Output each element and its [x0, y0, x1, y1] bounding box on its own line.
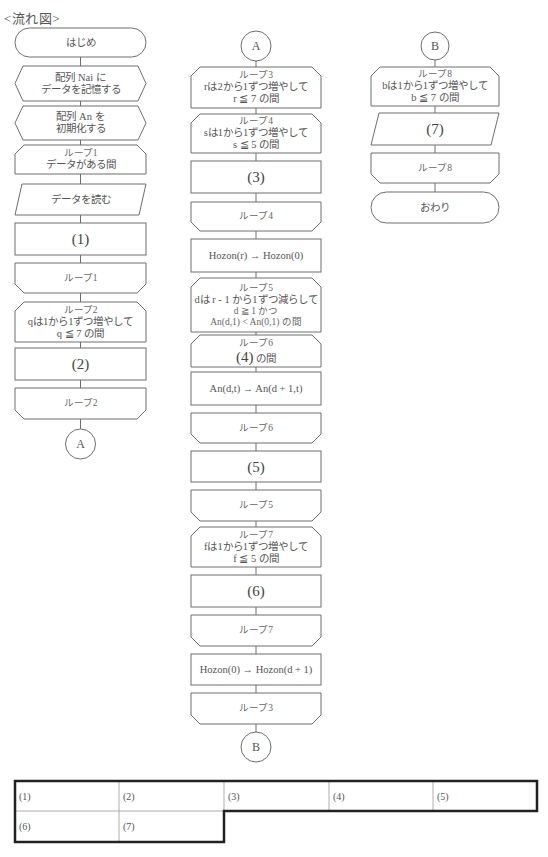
loop-condition: (4) の間 — [236, 349, 276, 365]
answer-cell-3[interactable]: (3) — [224, 781, 329, 811]
loop4-end: ループ4 — [191, 202, 321, 231]
loop-label: ループ3 — [239, 70, 273, 81]
preparation-line: 初期化する — [56, 123, 106, 135]
loop6-start: ループ6 (4) の間 — [191, 335, 321, 367]
loop6-end: ループ6 — [191, 413, 321, 443]
loop2-start: ループ2 qは1から1ずつ増やして q ≦ 7 の間 — [15, 302, 146, 342]
loop8-start: ループ8 bは1から1ずつ増やして b ≦ 7 の間 — [371, 67, 499, 106]
answer-label: (6) — [19, 821, 31, 832]
answer-cell-1[interactable]: (1) — [15, 781, 119, 811]
process-blank-5: (5) — [191, 451, 321, 482]
answer-label: (5) — [437, 791, 449, 802]
loop2-end: ループ2 — [15, 388, 146, 419]
loop5-start: ループ5 dは r - 1 から1ずつ減らして d ≧ 1 かつ An(d,1)… — [191, 278, 321, 332]
process-label: Hozon(0) → Hozon(d + 1) — [200, 664, 313, 676]
loop4-start: ループ4 sは1から1ずつ増やして s ≦ 5 の間 — [191, 114, 321, 153]
loop-condition: qは1から1ずつ増やして — [28, 316, 134, 328]
answer-label: (1) — [19, 791, 31, 802]
answer-label: (3) — [228, 791, 240, 802]
loop-condition: dは r - 1 から1ずつ減らして — [194, 294, 317, 306]
process-hozon-0: Hozon(0) → Hozon(d + 1) — [191, 654, 321, 685]
connector-label: B — [431, 40, 439, 52]
loop-label: ループ4 — [239, 211, 273, 222]
loop-label: ループ2 — [64, 305, 98, 316]
connector-b-in: B — [421, 32, 449, 60]
loop-condition: rは2から1ずつ増やして — [204, 81, 308, 93]
terminal-start: はじめ — [15, 28, 146, 57]
loop-condition: sは1から1ずつ増やして — [204, 127, 309, 139]
blank-label: (6) — [247, 583, 265, 599]
answer-cell-2[interactable]: (2) — [119, 781, 224, 811]
loop7-start: ループ7 fは1から1ずつ増やして f ≦ 5 の間 — [191, 527, 321, 567]
loop8-end: ループ8 — [371, 153, 499, 183]
loop-label: ループ8 — [418, 163, 452, 174]
loop7-end: ループ7 — [191, 615, 321, 646]
terminal-label: はじめ — [66, 37, 96, 49]
loop1-end: ループ1 — [15, 263, 146, 293]
blank-label: (4) — [236, 349, 254, 365]
answer-label: (2) — [123, 791, 135, 802]
preparation-line: データを記憶する — [41, 84, 121, 96]
connector-label: B — [252, 741, 260, 753]
answer-cell-6[interactable]: (6) — [15, 811, 119, 842]
process-blank-1: (1) — [15, 223, 146, 255]
loop-condition: s ≦ 5 の間 — [233, 139, 279, 151]
answer-cell-7[interactable]: (7) — [119, 811, 224, 842]
answer-cell-5[interactable]: (5) — [433, 781, 537, 811]
loop-label: ループ1 — [64, 148, 98, 159]
terminal-end: おわり — [371, 192, 499, 223]
loop5-end: ループ5 — [191, 490, 321, 521]
loop-label: ループ6 — [239, 423, 273, 434]
loop-condition: r ≦ 7 の間 — [233, 93, 279, 105]
loop-condition: データがある間 — [46, 159, 116, 171]
process-blank-2: (2) — [15, 348, 146, 380]
connector-a-in: A — [241, 31, 271, 61]
process-hozon-r: Hozon(r) → Hozon(0) — [191, 239, 321, 272]
loop-condition: b ≦ 7 の間 — [411, 92, 458, 104]
connector-b-out: B — [241, 732, 271, 762]
answer-cell-4[interactable]: (4) — [329, 781, 433, 811]
loop-label: ループ5 — [239, 500, 273, 511]
loop3-end: ループ3 — [191, 693, 321, 724]
preparation-line: 配列 Nai に — [55, 72, 105, 84]
loop-condition: d ≧ 1 かつ — [234, 306, 279, 317]
blank-label: (3) — [247, 169, 265, 185]
loop-condition: f ≦ 5 の間 — [233, 553, 279, 565]
loop-label: ループ6 — [239, 338, 273, 349]
output-blank-7: (7) — [371, 113, 499, 145]
preparation-store-nai: 配列 Nai に データを記憶する — [15, 66, 146, 101]
loop1-start: ループ1 データがある間 — [15, 145, 146, 174]
connector-label: A — [76, 438, 85, 450]
blank-label: (7) — [426, 121, 444, 137]
blank-label: (1) — [72, 231, 90, 247]
input-label: データを読む — [51, 194, 111, 206]
blank-label: (2) — [72, 356, 90, 372]
loop-condition: fは1から1ずつ増やして — [204, 541, 308, 553]
process-blank-6: (6) — [191, 575, 321, 607]
loop-label: ループ3 — [239, 703, 273, 714]
answer-label: (7) — [123, 821, 135, 832]
blank-label: (5) — [247, 459, 265, 475]
loop-label: ループ7 — [239, 530, 273, 541]
terminal-label: おわり — [420, 202, 450, 214]
loop-condition-suffix: の間 — [253, 353, 276, 364]
answer-label: (4) — [333, 791, 345, 802]
loop-condition: bは1から1ずつ増やして — [382, 80, 488, 92]
loop-label: ループ5 — [239, 283, 273, 294]
process-label: An(d,t) → An(d + 1,t) — [210, 383, 303, 395]
loop3-start: ループ3 rは2から1ずつ増やして r ≦ 7 の間 — [191, 67, 321, 108]
connector-label: A — [252, 40, 261, 52]
loop-label: ループ7 — [239, 625, 273, 636]
loop-condition: An(d,1) < An(0,1) の間 — [210, 317, 302, 328]
connector-a-out: A — [65, 429, 96, 459]
preparation-init-an: 配列 An を 初期化する — [15, 106, 146, 140]
loop-condition: q ≦ 7 の間 — [57, 328, 104, 340]
input-read-data: データを読む — [15, 184, 146, 215]
loop-label: ループ8 — [418, 69, 452, 80]
loop-label: ループ4 — [239, 116, 273, 127]
loop-label: ループ2 — [64, 398, 98, 409]
loop-label: ループ1 — [64, 273, 98, 284]
process-label: Hozon(r) → Hozon(0) — [209, 250, 303, 262]
preparation-line: 配列 An を — [56, 111, 104, 123]
process-blank-3: (3) — [191, 161, 321, 193]
